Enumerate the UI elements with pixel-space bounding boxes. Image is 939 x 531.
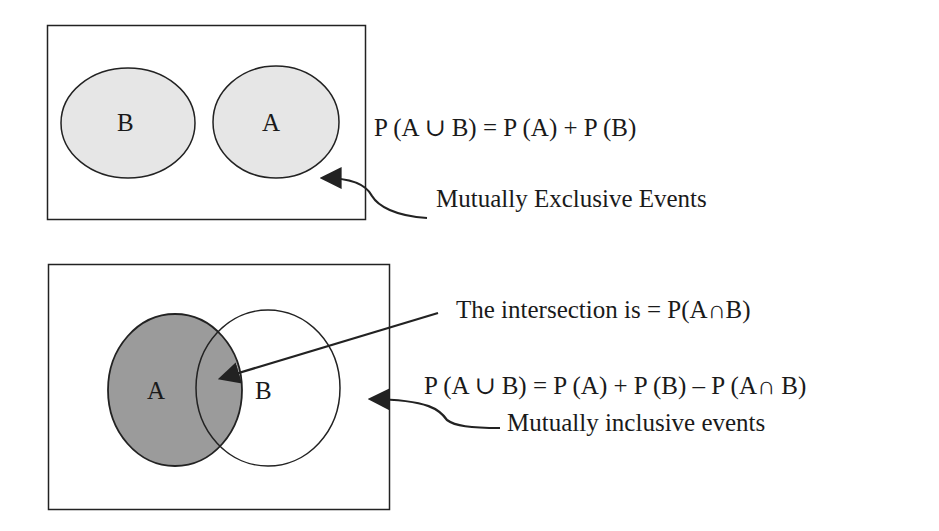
- caption-exclusive: Mutually Exclusive Events: [436, 186, 707, 211]
- intersection-note: The intersection is = P(A∩B): [456, 297, 751, 322]
- caption-inclusive: Mutually inclusive events: [507, 410, 765, 435]
- arrow-intersection: [222, 313, 438, 378]
- formula-inclusive: P (A ∪ B) = P (A) + P (B) – P (A∩ B): [424, 373, 806, 398]
- arrow-exclusive: [324, 178, 427, 218]
- set-b-label-bottom: B: [255, 378, 272, 403]
- arrow-inclusive: [372, 399, 500, 428]
- set-a-circle-bottom: [108, 314, 242, 466]
- set-a-label-top: A: [262, 110, 280, 135]
- set-a-label-bottom: A: [147, 378, 165, 403]
- formula-exclusive: P (A ∪ B) = P (A) + P (B): [374, 115, 636, 140]
- venn-diagram-canvas: [0, 0, 939, 531]
- set-b-label-top: B: [117, 110, 134, 135]
